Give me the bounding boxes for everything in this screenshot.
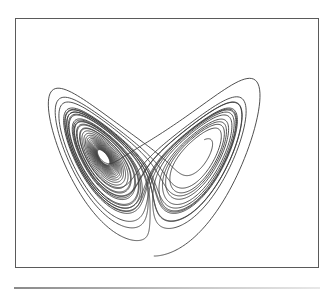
lorenz-attractor-plot bbox=[16, 19, 317, 266]
attractor-trajectory bbox=[48, 78, 260, 256]
plot-frame bbox=[15, 18, 319, 268]
